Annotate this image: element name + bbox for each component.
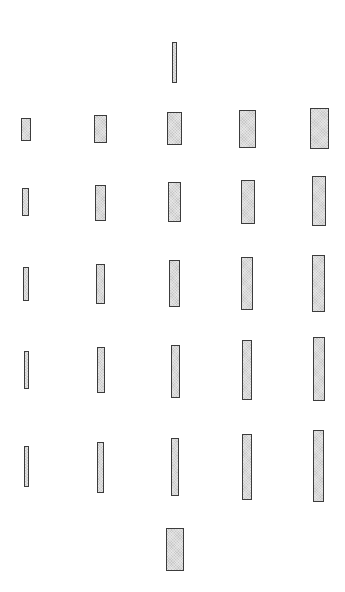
rectangle-row2-col5 (312, 176, 326, 226)
rectangle-row5-col3 (171, 438, 179, 496)
standard-rectangle-top (172, 42, 177, 83)
rectangle-row1-col3 (167, 112, 182, 145)
rectangle-row3-col5 (312, 255, 325, 312)
rectangle-row3-col2 (96, 264, 105, 304)
rectangle-row4-col4 (242, 340, 252, 400)
rectangle-row2-col3 (168, 182, 181, 222)
rectangle-row5-col5 (313, 430, 324, 502)
rectangle-row4-col2 (97, 347, 105, 393)
rectangle-row1-col1 (21, 118, 31, 141)
rectangle-row4-col3 (171, 345, 180, 398)
rectangle-row3-col4 (241, 257, 253, 310)
rectangle-row4-col5 (313, 337, 325, 401)
rectangle-row5-col2 (97, 442, 104, 493)
rectangle-row1-col2 (94, 115, 107, 143)
rectangle-row2-col2 (95, 185, 106, 221)
rectangle-row1-col4 (239, 110, 256, 148)
stimulus-diagram (0, 0, 345, 592)
rectangle-row4-col1 (24, 351, 29, 389)
rectangle-row1-col5 (310, 108, 329, 149)
rectangle-row2-col1 (22, 188, 29, 216)
rectangle-row3-col3 (169, 260, 180, 307)
rectangle-row2-col4 (241, 180, 255, 224)
rectangle-row3-col1 (23, 267, 29, 301)
rectangle-row5-col4 (242, 434, 252, 500)
rectangle-row5-col1 (24, 446, 29, 487)
standard-rectangle-bottom (166, 528, 184, 571)
